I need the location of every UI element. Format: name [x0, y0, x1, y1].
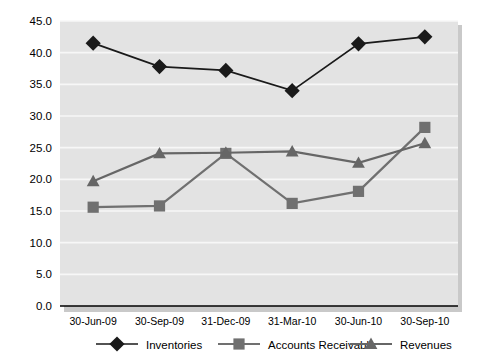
x-axis-tick-label: 30-Jun-10: [335, 315, 382, 327]
chart-canvas: 0.05.010.015.020.025.030.035.040.045.0 3…: [0, 0, 490, 363]
legend-accounts-receivable-square-marker: [233, 338, 244, 349]
y-axis-tick-label: 20.0: [30, 173, 52, 185]
series-accounts-receivable-point-0-square-marker: [88, 202, 99, 213]
legend-label-inventories: Inventories: [146, 339, 203, 351]
y-axis-tick-label: 40.0: [30, 47, 52, 59]
y-axis-tick-label: 35.0: [30, 78, 52, 90]
series-accounts-receivable-point-5-square-marker: [419, 122, 430, 133]
y-axis-tick-label: 0.0: [36, 300, 52, 312]
series-accounts-receivable-point-4-square-marker: [353, 186, 364, 197]
legend-label-revenues: Revenues: [400, 339, 452, 351]
series-accounts-receivable-point-1-square-marker: [154, 200, 165, 211]
plot-area-background: [60, 21, 458, 306]
x-axis-tick-labels: 30-Jun-0930-Sep-0931-Dec-0931-Mar-1030-J…: [70, 315, 450, 327]
x-axis-tick-label: 31-Mar-10: [268, 315, 317, 327]
y-axis-tick-label: 10.0: [30, 237, 52, 249]
series-accounts-receivable-point-3-square-marker: [287, 198, 298, 209]
x-axis-tick-label: 30-Sep-09: [135, 315, 184, 327]
y-axis-tick-labels: 0.05.010.015.020.025.030.035.040.045.0: [30, 15, 52, 312]
y-axis-tick-label: 25.0: [30, 142, 52, 154]
x-axis-tick-label: 30-Sep-10: [400, 315, 449, 327]
line-chart: 0.05.010.015.020.025.030.035.040.045.0 3…: [0, 0, 490, 363]
legend-item-inventories: Inventories: [96, 336, 203, 351]
x-axis-tick-label: 31-Dec-09: [201, 315, 250, 327]
x-axis-tick-label: 30-Jun-09: [70, 315, 117, 327]
legend-inventories-diamond-marker: [109, 336, 124, 351]
chart-legend: InventoriesAccounts ReceivableRevenues: [96, 336, 452, 351]
y-axis-tick-label: 15.0: [30, 205, 52, 217]
y-axis-tick-label: 5.0: [36, 268, 52, 280]
y-axis-tick-label: 45.0: [30, 15, 52, 27]
y-axis-tick-label: 30.0: [30, 110, 52, 122]
